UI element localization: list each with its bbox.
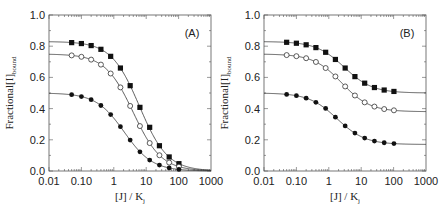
data-point-filled-circle <box>138 149 143 154</box>
x-tick-label: 10 <box>355 175 367 187</box>
data-point-square <box>108 54 113 59</box>
data-point-open-circle <box>352 93 357 98</box>
data-point-square <box>391 89 396 94</box>
data-point-square <box>352 74 357 79</box>
data-point-filled-circle <box>157 163 162 168</box>
data-point-open-circle <box>343 84 348 89</box>
y-tick-label: 0.0 <box>245 165 260 177</box>
y-tick-label: 0.8 <box>30 40 45 52</box>
x-axis-title: [J] / Kj <box>330 190 360 205</box>
data-point-square <box>118 65 123 70</box>
data-point-open-circle <box>323 66 328 71</box>
x-tick-label: 1 <box>111 175 117 187</box>
data-point-square <box>372 85 377 90</box>
data-point-open-circle <box>69 53 74 58</box>
data-point-open-circle <box>382 107 387 112</box>
data-point-filled-circle <box>147 158 152 163</box>
x-tick-label: 100 <box>384 175 402 187</box>
data-point-square <box>343 65 348 70</box>
y-axis-title: Fractional[I]bound <box>218 56 233 130</box>
data-point-square <box>167 154 172 159</box>
x-tick-label: 10 <box>140 175 152 187</box>
panel-label: (B) <box>400 27 415 39</box>
data-point-filled-circle <box>79 94 84 99</box>
y-tick-label: 0.6 <box>245 71 260 83</box>
y-tick-label: 0.2 <box>245 134 260 146</box>
data-point-open-circle <box>362 100 367 105</box>
data-point-filled-circle <box>353 131 358 136</box>
y-axis-title: Fractional[I]bound <box>3 56 18 130</box>
data-point-open-circle <box>391 108 396 113</box>
y-tick-label: 1.0 <box>30 9 45 21</box>
fit-curve <box>264 54 426 111</box>
data-point-filled-circle <box>362 136 367 141</box>
x-tick-label: 1 <box>326 175 332 187</box>
data-point-square <box>79 41 84 46</box>
data-point-filled-circle <box>99 103 104 108</box>
data-point-filled-circle <box>89 97 94 102</box>
data-point-filled-circle <box>333 115 338 120</box>
data-point-filled-circle <box>314 100 319 105</box>
data-point-square <box>362 81 367 86</box>
y-tick-label: 1.0 <box>245 9 260 21</box>
data-point-open-circle <box>167 160 172 165</box>
subscript: bound <box>225 56 233 74</box>
data-point-open-circle <box>333 74 338 79</box>
y-tick-label: 0.0 <box>30 165 45 177</box>
panel-a-chart: 0.010.1011010010000.00.20.40.60.81.0[J] … <box>3 9 223 205</box>
y-tick-label: 0.6 <box>30 71 45 83</box>
data-point-open-circle <box>118 85 123 90</box>
data-series <box>264 92 426 146</box>
data-point-filled-circle <box>177 167 182 172</box>
data-point-filled-circle <box>167 165 172 170</box>
data-point-open-circle <box>98 62 103 67</box>
fit-curve <box>49 54 211 170</box>
data-point-filled-circle <box>69 92 74 97</box>
data-point-open-circle <box>108 71 113 76</box>
data-point-filled-circle <box>128 138 133 143</box>
data-point-filled-circle <box>372 139 377 144</box>
data-point-square <box>313 45 318 50</box>
data-point-square <box>147 125 152 130</box>
data-series <box>49 53 211 171</box>
data-point-square <box>69 40 74 45</box>
data-point-open-circle <box>79 54 84 59</box>
data-point-open-circle <box>147 141 152 146</box>
y-tick-label: 0.4 <box>245 103 260 115</box>
x-tick-label: 0.10 <box>286 175 307 187</box>
data-point-square <box>98 47 103 52</box>
x-tick-label: 0.10 <box>71 175 92 187</box>
data-point-square <box>382 87 387 92</box>
data-point-filled-circle <box>323 106 328 111</box>
panel-label: (A) <box>185 27 200 39</box>
data-point-open-circle <box>294 54 299 59</box>
data-point-filled-circle <box>304 96 309 101</box>
y-tick-label: 0.4 <box>30 103 45 115</box>
data-point-square <box>157 143 162 148</box>
subscript: j <box>357 197 360 205</box>
data-point-square <box>137 105 142 110</box>
subscript: j <box>142 197 145 205</box>
x-tick-label: 100 <box>169 175 187 187</box>
data-point-open-circle <box>313 59 318 64</box>
data-point-square <box>333 57 338 62</box>
x-axis-title: [J] / Kj <box>115 190 145 205</box>
data-point-square <box>294 41 299 46</box>
data-point-square <box>89 43 94 48</box>
data-point-open-circle <box>157 153 162 158</box>
data-point-open-circle <box>304 56 309 61</box>
data-point-square <box>284 40 289 45</box>
data-point-filled-circle <box>343 124 348 129</box>
data-point-square <box>304 42 309 47</box>
data-point-open-circle <box>89 57 94 62</box>
data-series <box>264 53 426 113</box>
data-point-square <box>323 50 328 55</box>
data-point-filled-circle <box>108 112 113 117</box>
data-point-filled-circle <box>294 93 299 98</box>
data-point-open-circle <box>372 104 377 109</box>
panel-b-chart: 0.010.1011010010000.00.20.40.60.81.0[J] … <box>218 9 438 205</box>
x-tick-label: 1000 <box>199 175 223 187</box>
x-tick-label: 1000 <box>414 175 438 187</box>
y-tick-label: 0.2 <box>30 134 45 146</box>
data-point-square <box>128 83 133 88</box>
